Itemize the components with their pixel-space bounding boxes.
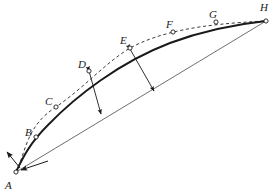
point-label-g: G bbox=[209, 9, 217, 20]
point-label-h: H bbox=[260, 2, 268, 13]
point-label-a: A bbox=[5, 180, 12, 191]
arrow-d-to-chord bbox=[89, 71, 101, 114]
point-marker-c bbox=[54, 105, 58, 109]
point-marker-f bbox=[171, 30, 175, 34]
tangent-arrow-at-a bbox=[7, 152, 20, 168]
point-marker-e bbox=[128, 46, 132, 50]
origin-arrow-group bbox=[7, 152, 48, 170]
figure-drawing bbox=[0, 0, 276, 196]
straight-chord-line bbox=[16, 21, 266, 172]
point-label-f: F bbox=[166, 19, 173, 30]
point-marker-g bbox=[214, 20, 218, 24]
point-label-c: C bbox=[45, 96, 52, 107]
point-marker-d bbox=[87, 69, 91, 73]
point-marker-a bbox=[14, 170, 18, 174]
point-marker-b bbox=[34, 135, 38, 139]
chord-arrow-at-a bbox=[21, 161, 48, 170]
point-label-e: E bbox=[120, 35, 127, 46]
point-label-d: D bbox=[78, 59, 86, 70]
point-label-b: B bbox=[25, 127, 32, 138]
figure-canvas: ABCDEFGH bbox=[0, 0, 276, 196]
point-marker-h bbox=[264, 19, 268, 23]
